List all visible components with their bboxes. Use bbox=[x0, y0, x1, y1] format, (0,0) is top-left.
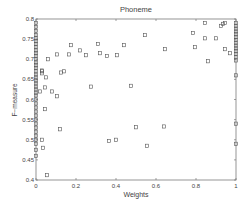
chart-background bbox=[0, 0, 248, 207]
scatter-chart: Phoneme 00.20.40.60.81 0.40.450.50.550.6… bbox=[0, 0, 248, 207]
y-tick-label: 0.4 bbox=[26, 177, 35, 183]
x-tick-label: 0.2 bbox=[72, 183, 81, 189]
x-axis-label: Weights bbox=[123, 191, 149, 199]
y-tick-label: 0.7 bbox=[26, 56, 35, 62]
y-tick-label: 0.45 bbox=[22, 157, 34, 163]
y-tick-label: 0.65 bbox=[22, 76, 34, 82]
y-tick-label: 0.5 bbox=[26, 137, 35, 143]
y-tick-label: 0.6 bbox=[26, 97, 35, 103]
x-tick-label: 0.8 bbox=[192, 183, 201, 189]
x-tick-label: 0.6 bbox=[152, 183, 161, 189]
x-tick-label: 0.4 bbox=[112, 183, 121, 189]
chart-title: Phoneme bbox=[120, 5, 152, 14]
y-tick-label: 0.75 bbox=[22, 36, 34, 42]
y-tick-label: 0.55 bbox=[22, 117, 34, 123]
y-tick-label: 0.8 bbox=[26, 16, 35, 22]
y-axis-label: F−measure bbox=[11, 83, 18, 116]
